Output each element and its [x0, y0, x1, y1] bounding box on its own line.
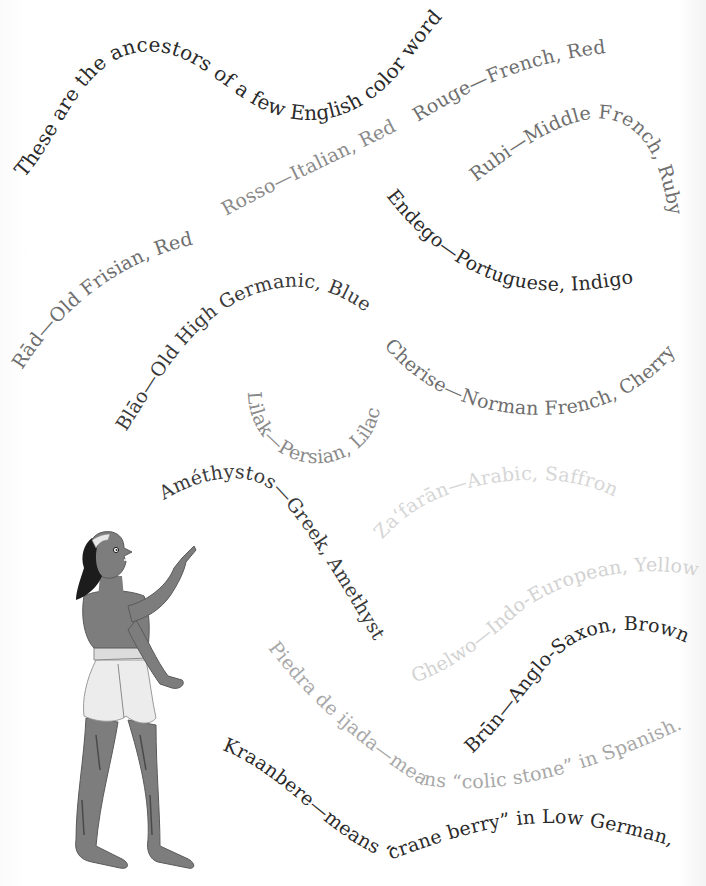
phrase-lilak-text: Lilak—Persian, Lilac [244, 391, 384, 468]
title-path: These are the ancestors of a few English… [0, 0, 447, 181]
phrase-piedra-text: Piedra de ijada—means “colic stone” in S… [265, 637, 685, 793]
phrase-endego-text: Endego—Portuguese, Indigo [383, 185, 635, 295]
figure-leg-front [76, 718, 128, 868]
phrase-rubi: Rubi—Middle French, Ruby [465, 100, 687, 216]
phrase-piedra: Piedra de ijada—means “colic stone” in S… [265, 637, 685, 793]
ancient-greek-figure-illustration [76, 532, 196, 869]
book-page: These are the ancestors of a few English… [0, 0, 706, 886]
illustrated-page: These are the ancestors of a few English… [0, 0, 706, 886]
title-text: These are the ancestors of a few English… [0, 0, 447, 181]
figure-loincloth [84, 660, 157, 723]
phrase-cherise: Cherise—Norman French, Cherry [381, 334, 679, 419]
phrase-zafaran: Zaʻfarān—Arabic, Saffron [369, 462, 622, 543]
phrase-blao: Blāo—Old High Germanic, Blue [111, 269, 376, 435]
phrase-cherise-text: Cherise—Norman French, Cherry [381, 334, 679, 419]
phrase-blao-text: Blāo—Old High Germanic, Blue [111, 269, 376, 435]
figure-arm-raised [128, 546, 196, 622]
figure-leg-back [128, 720, 194, 868]
phrase-zafaran-text: Zaʻfarān—Arabic, Saffron [369, 462, 622, 543]
figure-pupil [116, 549, 118, 551]
phrase-rosso-text: Rosso—Italian, Red [217, 114, 399, 219]
phrase-rubi-text: Rubi—Middle French, Ruby [465, 100, 687, 216]
phrase-rosso: Rosso—Italian, Red [217, 114, 399, 219]
phrase-endego: Endego—Portuguese, Indigo [383, 185, 635, 295]
phrase-lilak: Lilak—Persian, Lilac [244, 391, 384, 468]
figure-neck [98, 576, 124, 598]
